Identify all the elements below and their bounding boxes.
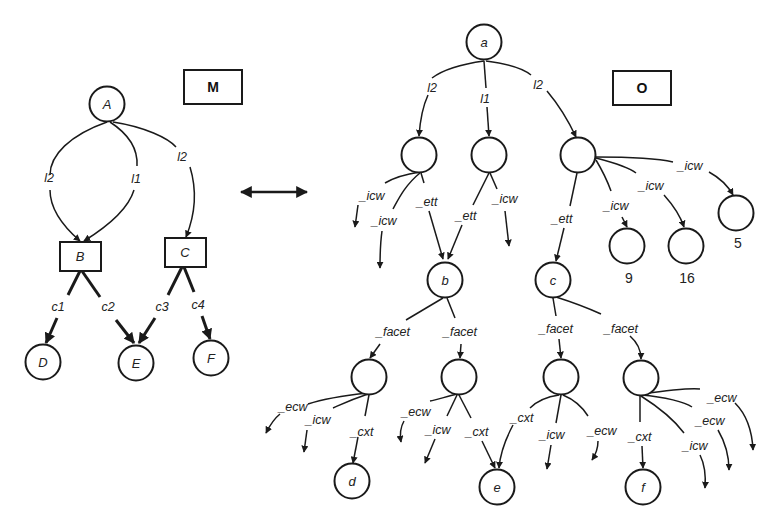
right-graph: O l2 l1 l2 _icw _icw (266, 25, 754, 505)
svg-text:C: C (180, 245, 190, 260)
edge-f3-ecw: _ecw (563, 395, 618, 460)
svg-text:_icw: _icw (424, 423, 451, 437)
svg-text:5: 5 (734, 235, 742, 251)
svg-text:b: b (441, 273, 448, 288)
node-value-9: 9 (610, 229, 645, 287)
edge-c-f-c4: c4 (184, 267, 210, 339)
svg-text:l1: l1 (480, 92, 490, 106)
svg-text:l1: l1 (131, 172, 141, 186)
graph-title-m: M (207, 79, 219, 95)
svg-text:_ett: _ett (416, 195, 438, 209)
svg-text:_cxt: _cxt (628, 430, 652, 444)
edge-c-f3-facet: _facet (538, 298, 574, 358)
node-f2 (442, 360, 477, 395)
edge-b-d-c1: c1 (46, 271, 80, 343)
node-e-upper: E (119, 346, 154, 381)
svg-text:_ecw: _ecw (586, 424, 617, 438)
svg-text:l2: l2 (44, 171, 54, 185)
edge-n1-icw-2: _icw (370, 173, 420, 268)
svg-text:_icw: _icw (676, 159, 703, 173)
diagram-canvas: M l2 l1 l2 c1 c2 (0, 0, 780, 527)
svg-text:_icw: _icw (681, 439, 708, 453)
svg-text:l2: l2 (533, 78, 543, 92)
node-n1 (402, 138, 437, 173)
node-d-upper: D (26, 345, 61, 380)
svg-text:_ecw: _ecw (706, 391, 737, 405)
edge-f4-f-cxt: _cxt (628, 396, 652, 468)
svg-text:_facet: _facet (375, 325, 411, 339)
node-f4 (624, 361, 659, 396)
svg-text:_ett: _ett (551, 212, 573, 226)
node-b-upper: B (60, 242, 101, 271)
edge-f1-d-cxt: _cxt (350, 395, 374, 463)
svg-text:A: A (102, 97, 112, 112)
edge-a-b-l2: l2 (44, 122, 107, 241)
svg-text:d: d (348, 474, 356, 489)
graph-title-o: O (637, 80, 648, 96)
svg-text:_ecw: _ecw (277, 400, 308, 414)
node-f3 (544, 360, 579, 395)
node-value-16: 16 (669, 229, 704, 287)
svg-text:c: c (550, 273, 557, 288)
svg-text:E: E (132, 356, 141, 371)
svg-text:_icw: _icw (304, 413, 331, 427)
graph-title-box-m: M (184, 70, 242, 104)
edge-a-n2: l1 (480, 61, 490, 136)
edge-n2-icw: _icw (490, 173, 518, 246)
graph-title-box-o: O (613, 71, 671, 105)
svg-text:16: 16 (679, 270, 695, 286)
svg-text:a: a (480, 35, 487, 50)
node-value-5: 5 (719, 196, 754, 252)
edge-n3-9-icw: _icw (596, 160, 629, 227)
node-a-lower: a (467, 25, 502, 60)
svg-text:_icw: _icw (637, 179, 664, 193)
node-n2 (472, 138, 507, 173)
edge-n3-5-icw: _icw (596, 157, 733, 195)
node-b-lower: b (428, 263, 463, 298)
svg-text:c2: c2 (101, 300, 114, 314)
node-a-upper: A (90, 87, 125, 122)
svg-text:_facet: _facet (538, 322, 574, 336)
edge-f2-e-cxt: _cxt (459, 395, 495, 468)
edge-a-b-l1: l1 (84, 122, 141, 241)
svg-text:9: 9 (625, 270, 633, 286)
svg-text:_facet: _facet (603, 322, 639, 336)
left-graph: M l2 l1 l2 c1 c2 (26, 70, 243, 381)
svg-text:l2: l2 (177, 150, 187, 164)
svg-text:_facet: _facet (442, 325, 478, 339)
edge-b-e-c2: c2 (82, 271, 134, 343)
node-f1 (352, 360, 387, 395)
edge-f4-ecw-1: _ecw (641, 395, 729, 470)
edge-n1-b-ett: _ett (416, 173, 443, 259)
node-e-lower: e (480, 470, 515, 505)
edge-a-n3: l2 (486, 61, 576, 137)
node-c-lower: c (536, 263, 571, 298)
node-d-lower: d (335, 464, 370, 499)
edge-b-f2-facet: _facet (442, 298, 478, 358)
svg-text:_icw: _icw (491, 192, 518, 206)
svg-text:_cxt: _cxt (350, 425, 374, 439)
svg-text:c1: c1 (51, 300, 64, 314)
node-f-upper: F (194, 341, 229, 376)
svg-text:_ecw: _ecw (694, 414, 725, 428)
svg-text:B: B (76, 249, 85, 264)
svg-text:_cxt: _cxt (510, 411, 534, 425)
svg-text:_ett: _ett (455, 209, 477, 223)
edge-c-e-c3: c3 (139, 267, 182, 343)
edge-a-c-l2: l2 (113, 122, 194, 237)
svg-text:F: F (207, 351, 216, 366)
edge-n3-16-icw: _icw (596, 158, 684, 227)
svg-text:_icw: _icw (602, 199, 629, 213)
node-n3 (561, 138, 596, 173)
svg-text:_cxt: _cxt (465, 425, 489, 439)
svg-text:_icw: _icw (370, 214, 397, 228)
edge-a-n1: l2 (419, 61, 484, 136)
svg-text:l2: l2 (427, 81, 437, 95)
edge-n3-c-ett: _ett (551, 173, 577, 261)
svg-text:c3: c3 (155, 300, 168, 314)
svg-text:e: e (493, 480, 500, 495)
svg-text:c4: c4 (191, 298, 204, 312)
node-f-lower: f (626, 470, 661, 505)
svg-text:D: D (38, 355, 47, 370)
edge-n2-b-ett: _ett (448, 173, 489, 259)
